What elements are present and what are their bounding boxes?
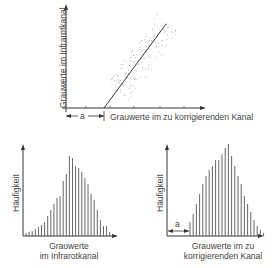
diagram-canvas — [0, 0, 276, 268]
scatter-plot — [62, 4, 206, 121]
scatter-x-axis-label: Grauwerte im zu korrigierenden Kanal — [110, 112, 253, 122]
histogram-left-x-axis-label-1: Grauwerte — [34, 241, 104, 251]
arrow-right-icon — [258, 234, 264, 238]
histogram-left — [21, 144, 118, 238]
arrow-right-icon — [200, 106, 206, 110]
histogram-right-y-axis-label: Häufigkeit — [155, 174, 165, 212]
histogram-right-offset-label: a — [175, 219, 180, 229]
arrow-up-icon — [21, 144, 25, 150]
histogram-right-x-axis-label-2: korrigierenden Kanal — [178, 251, 268, 261]
scatter-points — [111, 14, 176, 100]
histogram-left-y-axis-label: Häufigkeit — [11, 174, 21, 212]
regression-line — [104, 24, 166, 108]
histogram-left-x-axis-label-2: im Infrarotkanal — [34, 251, 104, 261]
arrow-up-icon — [165, 144, 169, 150]
histogram-right-x-axis-label-1: Grauwerte im zu — [178, 241, 268, 251]
scatter-offset-label: a — [80, 111, 85, 121]
scatter-y-axis-label: Grauwerte im Infrarotkanal — [58, 7, 68, 108]
